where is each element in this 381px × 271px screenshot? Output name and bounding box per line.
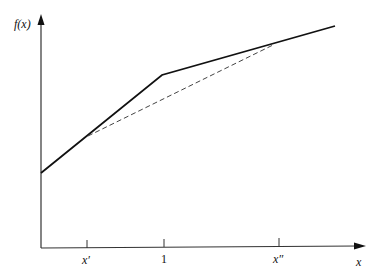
x-axis — [41, 246, 358, 248]
chord-dashed-line — [88, 45, 273, 136]
y-axis-label: f(x) — [14, 17, 31, 31]
tick-label-x-double-prime: x″ — [272, 252, 284, 266]
x-axis-arrow-icon — [354, 243, 366, 250]
x-axis-label: x — [355, 255, 362, 269]
concave-function-diagram: f(x) x x′ 1 x″ — [0, 0, 381, 271]
tick-label-x-prime: x′ — [81, 253, 90, 267]
function-curve — [41, 26, 335, 173]
y-axis-arrow-icon — [38, 14, 45, 25]
tick-label-one: 1 — [161, 252, 167, 266]
